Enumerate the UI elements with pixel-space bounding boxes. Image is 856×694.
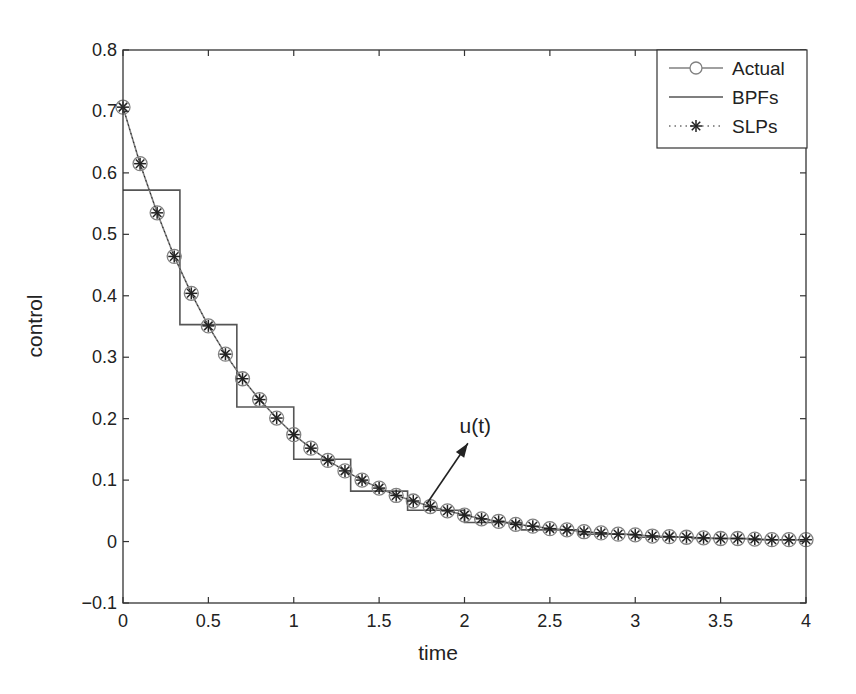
y-tick-label: −0.1 xyxy=(81,593,117,613)
slp-marker xyxy=(254,394,266,406)
slp-marker xyxy=(237,373,249,385)
y-tick-label: 0.8 xyxy=(92,40,117,60)
slp-marker xyxy=(373,482,385,494)
slp-marker xyxy=(407,495,419,507)
x-tick-label: 1 xyxy=(289,611,299,631)
y-tick-label: 0.7 xyxy=(92,101,117,121)
slp-marker xyxy=(663,531,675,543)
slp-marker xyxy=(390,489,402,501)
legend-label: Actual xyxy=(732,58,785,79)
x-tick-label: 3 xyxy=(630,611,640,631)
y-axis-label: control xyxy=(23,294,46,357)
slp-marker xyxy=(202,320,214,332)
slp-marker xyxy=(783,534,795,546)
slp-marker xyxy=(356,474,368,486)
slp-marker xyxy=(629,529,641,541)
slp-marker xyxy=(339,465,351,477)
y-tick-label: 0 xyxy=(107,532,117,552)
x-tick-label: 0 xyxy=(118,611,128,631)
x-axis-label: time xyxy=(418,641,458,664)
slp-marker xyxy=(544,523,556,535)
x-tick-label: 3.5 xyxy=(708,611,733,631)
slp-marker xyxy=(271,412,283,424)
circle-marker-icon xyxy=(690,62,702,74)
slp-marker xyxy=(715,532,727,544)
slp-marker xyxy=(527,520,539,532)
y-tick-label: 0.4 xyxy=(92,286,117,306)
x-tick-label: 4 xyxy=(801,611,811,631)
x-tick-label: 0.5 xyxy=(196,611,221,631)
slp-marker xyxy=(441,505,453,517)
slp-marker xyxy=(288,429,300,441)
slp-marker xyxy=(185,287,197,299)
slp-marker xyxy=(134,158,146,170)
y-tick-label: 0.1 xyxy=(92,470,117,490)
slp-marker xyxy=(168,250,180,262)
slp-marker xyxy=(476,513,488,525)
legend-label: BPFs xyxy=(732,87,778,108)
slp-marker xyxy=(698,532,710,544)
slp-marker xyxy=(595,527,607,539)
y-tick-label: 0.2 xyxy=(92,409,117,429)
slp-marker xyxy=(151,207,163,219)
slp-marker xyxy=(732,532,744,544)
slp-marker xyxy=(680,531,692,543)
slp-marker xyxy=(561,524,573,536)
y-tick-label: 0.5 xyxy=(92,224,117,244)
chart: 00.511.522.533.54 −0.100.10.20.30.40.50.… xyxy=(0,0,856,694)
slp-marker xyxy=(424,501,436,513)
slp-marker xyxy=(219,348,231,360)
slp-marker xyxy=(612,528,624,540)
slp-marker xyxy=(646,530,658,542)
slp-marker xyxy=(749,533,761,545)
slp-marker xyxy=(305,442,317,454)
annotation-text: u(t) xyxy=(460,414,492,437)
slp-marker xyxy=(459,509,471,521)
slp-marker xyxy=(493,515,505,527)
y-tick-label: 0.6 xyxy=(92,163,117,183)
slp-marker xyxy=(322,454,334,466)
x-tick-label: 1.5 xyxy=(367,611,392,631)
legend: ActualBPFsSLPs xyxy=(657,50,807,148)
x-tick-label: 2.5 xyxy=(537,611,562,631)
x-tick-label: 2 xyxy=(459,611,469,631)
slp-marker xyxy=(510,518,522,530)
y-tick-label: 0.3 xyxy=(92,347,117,367)
legend-label: SLPs xyxy=(732,116,777,137)
asterisk-marker-icon xyxy=(690,120,702,132)
slp-marker xyxy=(766,534,778,546)
slp-marker xyxy=(578,526,590,538)
